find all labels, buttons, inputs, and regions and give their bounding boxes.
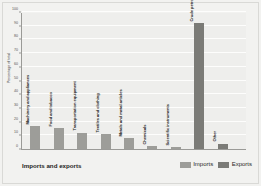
y-axis-tick-label: 100 (12, 7, 18, 11)
bar-category-label: Chemicals (143, 125, 148, 145)
bar (194, 23, 204, 149)
bar-category-label: Other (214, 131, 219, 142)
chart-footer: Imports and exports ImportsExports (0, 152, 261, 186)
bar (124, 138, 134, 149)
y-axis-tick-label: 10 (14, 130, 18, 134)
bar (77, 133, 87, 149)
gridline (22, 11, 246, 12)
gridline (22, 93, 246, 94)
x-axis-title: Imports and exports (22, 162, 81, 170)
legend-swatch (180, 162, 191, 168)
y-axis-tick-label: 50 (14, 76, 18, 80)
bar (171, 147, 181, 149)
bar (147, 146, 157, 149)
bar-category-label: Food and tobacco (50, 93, 55, 127)
bar (218, 144, 228, 149)
legend-item: Exports (218, 161, 252, 168)
chart-legend: ImportsExports (180, 161, 252, 168)
y-axis-tick-label: 70 (14, 48, 18, 52)
bar-category-label: Machinery and appliances (26, 74, 31, 124)
gridline (22, 25, 246, 26)
legend-label: Exports (232, 161, 252, 168)
y-axis: 0102030405060708090100 (0, 13, 21, 150)
gridline (22, 38, 246, 39)
bar-category-label: Metals and metal articles (120, 89, 125, 136)
gridline (22, 52, 246, 53)
y-axis-tick-label: 0 (16, 144, 18, 148)
bar-category-label: Transportation equipment (73, 82, 78, 131)
bar (101, 134, 111, 149)
legend-label: Imports (193, 161, 213, 168)
legend-swatch (218, 162, 229, 168)
y-axis-tick-label: 40 (14, 89, 18, 93)
bar-category-label: Crude petroleum (190, 0, 195, 21)
gridline (22, 121, 246, 122)
gridline (22, 66, 246, 67)
y-axis-tick-label: 80 (14, 34, 18, 38)
y-axis-tick-label: 60 (14, 62, 18, 66)
gridline (22, 80, 246, 81)
plot-area: Machinery and appliancesFood and tobacco… (21, 13, 246, 150)
bar (30, 126, 40, 149)
bar-category-label: Textiles and clothing (96, 93, 101, 132)
chart-figure: Percentage of total 01020304050607080901… (0, 0, 261, 186)
y-axis-tick-label: 90 (14, 21, 18, 25)
gridline (22, 107, 246, 108)
y-axis-tick-label: 30 (14, 103, 18, 107)
legend-item: Imports (180, 161, 214, 168)
bar (54, 128, 64, 149)
bar-category-label: Scientific instruments (167, 104, 172, 146)
y-axis-tick-label: 20 (14, 117, 18, 121)
